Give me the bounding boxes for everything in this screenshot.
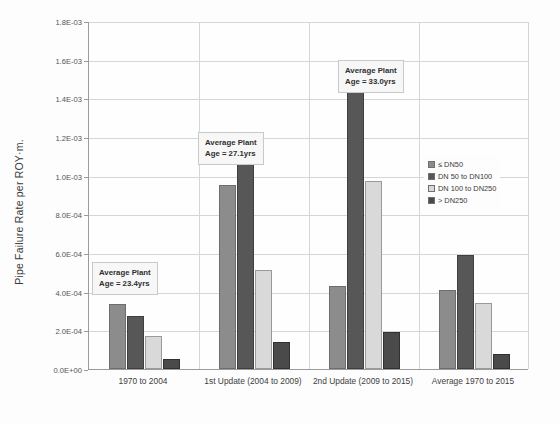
bar[interactable] — [329, 286, 346, 369]
bar[interactable] — [493, 354, 510, 369]
y-tick-label: 6.0E-04 — [38, 250, 82, 259]
annotation-line-2: Age = 23.4yrs — [99, 278, 151, 289]
plant-age-annotation: Average PlantAge = 23.4yrs — [92, 262, 158, 295]
y-tick-label: 0.0E+00 — [38, 366, 82, 375]
legend-swatch-icon — [428, 161, 435, 168]
y-tick-mark — [84, 138, 88, 139]
y-tick-label: 8.0E-04 — [38, 211, 82, 220]
bar[interactable] — [475, 303, 492, 369]
bar[interactable] — [219, 185, 236, 369]
legend-swatch-icon — [428, 173, 435, 180]
bar[interactable] — [127, 316, 144, 369]
y-axis-title-text: Pipe Failure Rate per ROY·m. — [13, 139, 25, 285]
x-tick-label: 1st Update (2004 to 2009) — [198, 376, 308, 386]
legend-label: DN 50 to DN100 — [438, 172, 492, 181]
y-tick-label: 1.8E-03 — [38, 18, 82, 27]
legend-swatch-icon — [428, 197, 435, 204]
y-tick-label: 1.0E-03 — [38, 173, 82, 182]
legend-label: ≤ DN50 — [438, 160, 463, 169]
legend-item[interactable]: DN 50 to DN100 — [428, 170, 496, 182]
bar[interactable] — [365, 181, 382, 369]
bar[interactable] — [237, 162, 254, 369]
y-tick-mark — [84, 254, 88, 255]
bar-group — [199, 22, 309, 369]
legend-label: DN 100 to DN250 — [438, 184, 496, 193]
annotation-line-2: Age = 27.1yrs — [205, 148, 257, 159]
legend-item[interactable]: ≤ DN50 — [428, 158, 496, 170]
bar[interactable] — [109, 304, 126, 369]
y-tick-mark — [84, 293, 88, 294]
y-tick-label: 2.0E-04 — [38, 327, 82, 336]
y-tick-mark — [84, 99, 88, 100]
y-tick-label: 1.6E-03 — [38, 57, 82, 66]
y-tick-label: 1.4E-03 — [38, 95, 82, 104]
legend: ≤ DN50DN 50 to DN100DN 100 to DN250> DN2… — [424, 156, 500, 208]
annotation-line-2: Age = 33.0yrs — [345, 76, 397, 87]
y-tick-mark — [84, 370, 88, 371]
legend-item[interactable]: DN 100 to DN250 — [428, 182, 496, 194]
bar-chart: Pipe Failure Rate per ROY·m. 1.8E-031.6E… — [0, 0, 560, 424]
bar[interactable] — [457, 255, 474, 369]
annotation-line-1: Average Plant — [345, 65, 397, 76]
annotation-line-1: Average Plant — [205, 137, 257, 148]
bar-group — [89, 22, 199, 369]
bar[interactable] — [255, 270, 272, 369]
y-tick-label: 1.2E-03 — [38, 134, 82, 143]
y-tick-mark — [84, 177, 88, 178]
y-axis-title: Pipe Failure Rate per ROY·m. — [6, 0, 32, 424]
y-tick-mark — [84, 61, 88, 62]
y-tick-mark — [84, 331, 88, 332]
bar[interactable] — [439, 290, 456, 369]
y-tick-mark — [84, 215, 88, 216]
x-tick-label: Average 1970 to 2015 — [418, 376, 528, 386]
bar[interactable] — [383, 332, 400, 369]
bar[interactable] — [145, 336, 162, 369]
x-tick-label: 2nd Update (2009 to 2015) — [308, 376, 418, 386]
legend-label: > DN250 — [438, 196, 467, 205]
y-tick-label: 4.0E-04 — [38, 289, 82, 298]
bar[interactable] — [163, 359, 180, 369]
annotation-line-1: Average Plant — [99, 267, 151, 278]
y-tick-mark — [84, 22, 88, 23]
plant-age-annotation: Average PlantAge = 33.0yrs — [338, 60, 404, 93]
bar[interactable] — [347, 60, 364, 369]
plant-age-annotation: Average PlantAge = 27.1yrs — [198, 132, 264, 165]
legend-item[interactable]: > DN250 — [428, 194, 496, 206]
x-tick-label: 1970 to 2004 — [88, 376, 198, 386]
legend-swatch-icon — [428, 185, 435, 192]
bar[interactable] — [273, 342, 290, 369]
